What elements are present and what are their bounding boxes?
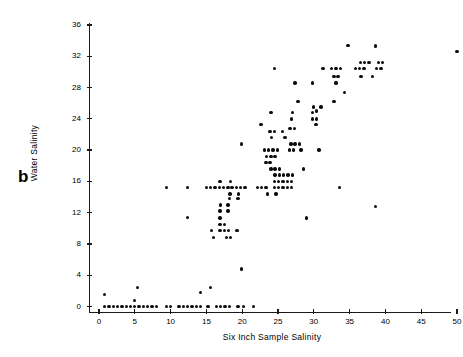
scatter-point: [266, 192, 269, 195]
scatter-point: [186, 186, 189, 189]
scatter-point: [228, 305, 231, 308]
scatter-point: [381, 61, 384, 64]
scatter-point: [339, 67, 342, 70]
scatter-point: [321, 67, 324, 70]
scatter-point: [264, 161, 267, 164]
scatter-point: [289, 142, 292, 145]
scatter-point: [210, 229, 213, 232]
scatter-point: [215, 305, 218, 308]
scatter-point: [330, 67, 333, 70]
scatter-point: [239, 186, 242, 189]
scatter-point: [278, 173, 281, 176]
scatter-point: [314, 123, 317, 126]
scatter-point: [362, 67, 365, 70]
scatter-point: [288, 127, 291, 130]
scatter-point: [278, 167, 281, 170]
scatter-point: [281, 186, 284, 189]
scatter-point: [137, 305, 140, 308]
scatter-point: [271, 148, 274, 151]
scatter-point: [235, 186, 238, 189]
scatter-point: [343, 91, 346, 94]
scatter-point: [222, 186, 225, 189]
scatter-point: [226, 186, 229, 189]
scatter-point: [265, 155, 268, 158]
scatter-point: [129, 305, 132, 308]
scatter-point: [155, 305, 158, 308]
plot-data-area: [0, 0, 463, 357]
scatter-point: [273, 173, 276, 176]
scatter-point: [209, 286, 212, 289]
scatter-point: [235, 229, 238, 232]
scatter-point: [273, 67, 276, 70]
scatter-point: [319, 105, 322, 108]
scatter-point: [218, 216, 221, 219]
scatter-point: [133, 299, 136, 302]
scatter-point: [103, 305, 106, 308]
scatter-point: [218, 209, 221, 212]
scatter-point: [367, 61, 370, 64]
scatter-point: [375, 67, 378, 70]
scatter-point: [283, 136, 286, 139]
scatter-point: [315, 117, 318, 120]
scatter-point: [288, 148, 291, 151]
scatter-point: [305, 216, 308, 219]
scatter-point: [270, 136, 273, 139]
scatter-point: [311, 81, 314, 84]
scatter-point: [359, 75, 362, 78]
scatter-point: [311, 111, 314, 114]
scatter-point: [273, 180, 276, 183]
scatter-point: [120, 305, 123, 308]
scatter-point: [346, 44, 349, 47]
scatter-point: [296, 100, 299, 103]
scatter-point: [293, 142, 296, 145]
scatter-point: [142, 305, 145, 308]
scatter-point: [359, 61, 362, 64]
scatter-point: [274, 192, 277, 195]
scatter-point: [315, 109, 318, 112]
scatter-point: [277, 186, 280, 189]
scatter-point: [273, 130, 276, 133]
scatter-point: [219, 305, 222, 308]
scatter-point: [146, 305, 149, 308]
scatter-point: [299, 148, 302, 151]
scatter-point: [256, 186, 259, 189]
scatter-point: [264, 186, 267, 189]
scatter-point: [317, 148, 320, 151]
scatter-point: [107, 305, 110, 308]
scatter-point: [312, 105, 315, 108]
scatter-point: [218, 229, 221, 232]
scatter-point: [243, 186, 246, 189]
scatter-point: [236, 197, 239, 200]
scatter-point: [259, 123, 262, 126]
scatter-point: [223, 305, 226, 308]
scatter-point: [374, 44, 377, 47]
scatter-point: [298, 142, 301, 145]
scatter-point: [112, 305, 115, 308]
scatter-point: [199, 305, 202, 308]
scatter-point: [290, 180, 293, 183]
scatter-point: [281, 180, 284, 183]
scatter-point: [293, 81, 296, 84]
scatter-point: [363, 61, 366, 64]
scatter-point: [133, 305, 136, 308]
scatter-point: [223, 229, 226, 232]
scatter-point: [103, 293, 106, 296]
scatter-point: [267, 148, 270, 151]
scatter-point: [377, 61, 380, 64]
scatter-point: [268, 130, 271, 133]
scatter-point: [269, 155, 272, 158]
scatter-point: [169, 305, 172, 308]
scatter-point: [226, 209, 229, 212]
scatter-point: [336, 75, 339, 78]
scatter-point: [252, 305, 255, 308]
scatter-point: [242, 305, 245, 308]
scatter-point: [206, 305, 209, 308]
scatter-point: [276, 148, 279, 151]
scatter-point: [186, 305, 189, 308]
scatter-point: [455, 50, 458, 53]
scatter-point: [213, 186, 216, 189]
scatter-point: [182, 305, 185, 308]
scatter-point: [228, 192, 231, 195]
scatter-point: [358, 67, 361, 70]
scatter-point: [116, 305, 119, 308]
